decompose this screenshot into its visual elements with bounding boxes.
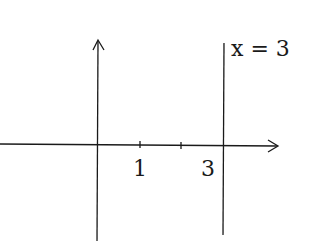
line-label: x = 3 [231,38,290,60]
line-x-equals-3 [223,43,224,235]
tick-label-3: 3 [201,158,215,180]
y-axis [97,41,98,241]
tick-label-1: 1 [133,158,147,180]
coordinate-diagram: 1 3 x = 3 [0,0,317,248]
x-axis [0,144,277,146]
